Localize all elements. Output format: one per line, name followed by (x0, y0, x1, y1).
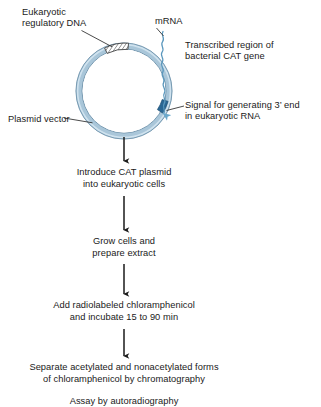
leader-eukaryotic-dna (82, 31, 113, 47)
flow-step-add-chloramphenicol: Add radiolabeled chloramphenicol and inc… (53, 300, 195, 323)
flow-step-assay: Assay by autoradiography (70, 396, 179, 407)
label-transcribed-region: Transcribed region of bacterial CAT gene (185, 40, 274, 62)
plasmid-ring (76, 43, 172, 139)
flow-step-grow: Grow cells and prepare extract (92, 236, 155, 259)
flow-step-introduce: Introduce CAT plasmid into eukaryotic ce… (77, 167, 172, 190)
flow-step-separate-forms: Separate acetylated and nonacetylated fo… (29, 362, 218, 385)
label-eukaryotic-regulatory-dna: Eukaryotic regulatory DNA (22, 7, 86, 29)
label-mrna: mRNA (155, 16, 183, 27)
figure-canvas: Eukaryotic regulatory DNA mRNA Transcrib… (0, 0, 321, 407)
label-plasmid-vector: Plasmid vector (8, 114, 70, 125)
label-signal-3-prime-end: Signal for generating 3’ end in eukaryot… (185, 100, 300, 122)
